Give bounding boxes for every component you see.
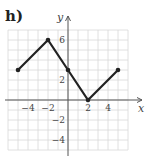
data-point	[86, 98, 91, 103]
x-tick-label: 2	[85, 103, 91, 113]
y-tick-label: −4	[52, 135, 66, 145]
chart-svg: xy −4−22462−2−4	[0, 0, 151, 158]
y-tick-label: −2	[52, 115, 65, 125]
x-axis-label: x	[138, 102, 145, 115]
data-point	[46, 38, 51, 43]
data-point	[16, 68, 21, 73]
x-tick-label: −4	[21, 103, 35, 113]
data-point	[66, 68, 71, 73]
data-point	[116, 68, 121, 73]
y-tick-label: 6	[59, 35, 65, 45]
chart-panel: h) xy −4−22462−2−4	[0, 0, 151, 158]
y-tick-label: 2	[59, 75, 65, 85]
y-axis-label: y	[56, 11, 64, 24]
axes: xy	[5, 11, 145, 156]
x-tick-label: 4	[105, 103, 111, 113]
x-tick-label: −2	[41, 103, 54, 113]
